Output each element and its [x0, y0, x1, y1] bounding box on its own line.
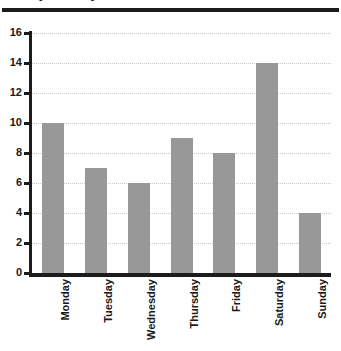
y-axis-tick-mark: [24, 92, 30, 95]
bar[interactable]: [213, 153, 235, 273]
y-axis-tick-mark: [24, 182, 30, 185]
y-axis-tick-label: 4: [0, 207, 22, 218]
y-axis-tick-mark: [24, 122, 30, 125]
x-axis-tick-label: Sunday: [316, 279, 328, 319]
bar[interactable]: [256, 63, 278, 273]
x-axis-spine: [29, 273, 331, 277]
bar[interactable]: [299, 213, 321, 273]
bar-chart-figure: Daily Activity 0246810121416 MondayTuesd…: [0, 0, 341, 351]
x-axis-tick-label: Friday: [230, 279, 242, 312]
x-axis-tick-labels: MondayTuesdayWednesdayThursdayFridaySatu…: [32, 279, 331, 351]
y-axis-tick-label: 12: [0, 87, 22, 98]
bar[interactable]: [42, 123, 64, 273]
y-axis-tick-mark: [24, 212, 30, 215]
y-axis-tick-mark: [24, 242, 30, 245]
bar[interactable]: [171, 138, 193, 273]
y-axis-tick-label: 8: [0, 147, 22, 158]
y-axis-tick-mark: [24, 272, 30, 275]
y-axis-tick-label: 2: [0, 237, 22, 248]
x-axis-tick-label: Wednesday: [145, 279, 157, 340]
y-axis-tick-label: 16: [0, 27, 22, 38]
bar[interactable]: [85, 168, 107, 273]
y-axis-tick-label: 0: [0, 267, 22, 278]
header-divider-rule: [2, 8, 339, 12]
bar[interactable]: [128, 183, 150, 273]
y-axis-tick-mark: [24, 62, 30, 65]
x-axis-tick-label: Thursday: [188, 279, 200, 329]
x-axis-tick-label: Saturday: [273, 279, 285, 326]
y-axis-tick-mark: [24, 32, 30, 35]
y-axis-tick-labels: 0246810121416: [0, 0, 22, 351]
chart-title-remnant: Daily Activity: [0, 0, 341, 3]
x-axis-tick-label: Tuesday: [102, 279, 114, 323]
y-axis-tick-label: 10: [0, 117, 22, 128]
x-axis-tick-label: Monday: [59, 279, 71, 321]
y-axis-tick-mark: [24, 152, 30, 155]
y-axis-tick-label: 14: [0, 57, 22, 68]
y-axis-tick-label: 6: [0, 177, 22, 188]
bars-layer: [32, 33, 331, 273]
